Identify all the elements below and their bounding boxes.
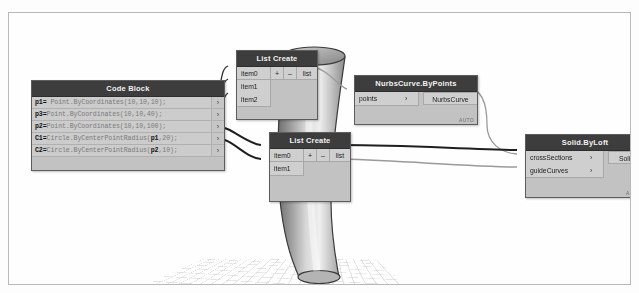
solid-byloft-title: Solid.ByLoft [526, 135, 631, 151]
node-list-create-2[interactable]: List Create item0 + – list item1 [269, 132, 351, 202]
chevron-right-icon: › [590, 164, 596, 177]
list-create-1-row-0[interactable]: item0 + – list [237, 67, 317, 80]
add-input-button[interactable]: + [304, 149, 317, 162]
remove-input-button[interactable]: – [284, 67, 297, 80]
code-output-port[interactable]: › [211, 97, 224, 108]
code-line[interactable]: C2=Circle.ByCenterPointRadius(p2,10); › [32, 145, 224, 157]
screenshot-root: Code Block p1= Point.ByCoordinates(10,10… [0, 0, 639, 293]
solid-byloft-body[interactable]: crossSections › guideCurves › Solid AUTO [526, 151, 631, 197]
list-create-2-row-0[interactable]: item0 + – list [270, 149, 350, 162]
dynamo-canvas-frame: Code Block p1= Point.ByCoordinates(10,10… [8, 12, 631, 285]
code-line[interactable]: p1= Point.ByCoordinates(10,10,10); › [32, 97, 224, 109]
code-block-body[interactable]: p1= Point.ByCoordinates(10,10,10); › p3=… [32, 97, 224, 170]
node-nurbscurve-bypoints[interactable]: NurbsCurve.ByPoints points › NurbsCurve … [354, 75, 478, 125]
list-create-1-row-2[interactable]: item2 [237, 93, 317, 106]
code-line[interactable]: C1=Circle.ByCenterPointRadius(p1,20); › [32, 133, 224, 145]
output-port-solid[interactable]: Solid [608, 151, 631, 164]
list-create-1-row-1[interactable]: item1 [237, 80, 317, 93]
list-create-2-body[interactable]: item0 + – list item1 [270, 149, 350, 201]
add-input-button[interactable]: + [271, 67, 284, 80]
code-output-port[interactable]: › [211, 109, 224, 120]
code-output-port[interactable]: › [211, 133, 224, 144]
chevron-right-icon: › [405, 92, 411, 105]
input-port-item1[interactable]: item1 [270, 162, 304, 176]
code-output-port[interactable]: › [211, 121, 224, 132]
output-port-nurbscurve[interactable]: NurbsCurve [423, 92, 477, 105]
code-line-text: p2=Point.ByCoordinates(10,10,100); [32, 123, 211, 130]
code-line-text: C2=Circle.ByCenterPointRadius(p2,10); [32, 147, 211, 154]
list-create-1-title: List Create [237, 51, 317, 67]
code-output-port[interactable]: › [211, 145, 224, 156]
nurbscurve-body[interactable]: points › NurbsCurve AUTO [355, 92, 477, 124]
code-line[interactable]: p3=Point.ByCoordinates(10,10,40); › [32, 109, 224, 121]
output-port-list[interactable]: list [297, 67, 317, 80]
list-create-1-body[interactable]: item0 + – list item1 item2 [237, 67, 317, 119]
code-line-text: p1= Point.ByCoordinates(10,10,10); [32, 99, 211, 106]
remove-input-button[interactable]: – [317, 149, 330, 162]
list-create-2-title: List Create [270, 133, 350, 149]
code-line[interactable]: p2=Point.ByCoordinates(10,10,100); › [32, 121, 224, 133]
code-line-text: C1=Circle.ByCenterPointRadius(p1,20); [32, 135, 211, 142]
node-solid-byloft[interactable]: Solid.ByLoft crossSections › guideCurves… [525, 134, 631, 198]
output-port-list[interactable]: list [330, 149, 350, 162]
run-mode-label: AUTO [626, 190, 631, 196]
code-block-title: Code Block [32, 81, 224, 97]
chevron-right-icon: › [590, 151, 596, 164]
list-create-2-row-1[interactable]: item1 [270, 162, 350, 175]
run-mode-label: AUTO [459, 117, 474, 123]
input-port-item1[interactable]: item1 [237, 80, 271, 94]
input-port-item0[interactable]: item0 [237, 67, 271, 80]
node-code-block[interactable]: Code Block p1= Point.ByCoordinates(10,10… [31, 80, 225, 171]
input-port-item2[interactable]: item2 [237, 93, 271, 107]
nurbscurve-title: NurbsCurve.ByPoints [355, 76, 477, 92]
code-line-text: p3=Point.ByCoordinates(10,10,40); [32, 111, 211, 118]
node-list-create-1[interactable]: List Create item0 + – list item1 item2 [236, 50, 318, 120]
solid-byloft-row-guidecurves[interactable]: guideCurves › [526, 164, 631, 177]
code-block-footer [32, 157, 224, 170]
input-port-item0[interactable]: item0 [270, 149, 304, 162]
